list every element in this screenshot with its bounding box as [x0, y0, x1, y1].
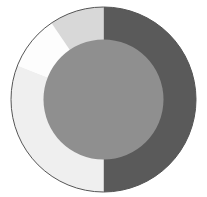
center-disc [44, 40, 164, 160]
donut-chart [0, 0, 207, 197]
